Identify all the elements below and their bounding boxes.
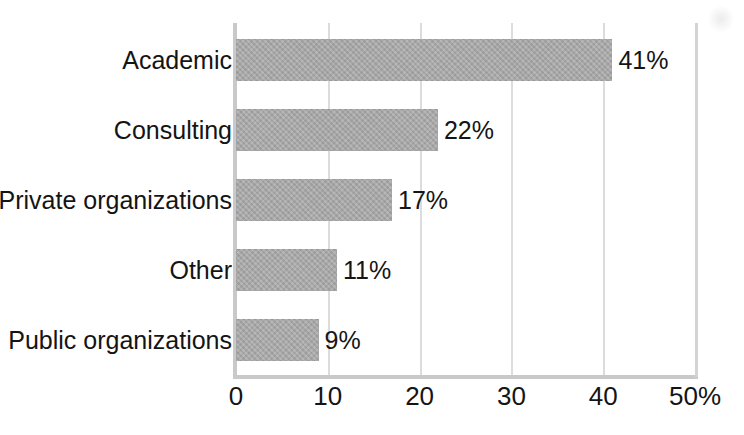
bar-value-label: 9% (325, 319, 361, 361)
bar-row: 22% (236, 95, 695, 165)
category-label: Consulting (0, 115, 232, 145)
bar-value-label: 22% (444, 109, 494, 151)
bar (236, 39, 612, 81)
bar-row: 41% (236, 25, 695, 95)
x-axis-line (233, 375, 698, 379)
bar-value-label: 41% (618, 39, 668, 81)
bar (236, 319, 319, 361)
x-tick-label: 0 (229, 381, 243, 411)
bar-value-label: 17% (398, 179, 448, 221)
category-label: Private organizations (0, 185, 232, 215)
category-label: Public organizations (0, 325, 232, 355)
category-label: Academic (0, 45, 232, 75)
bar-row: 11% (236, 235, 695, 305)
x-tick-label: 10 (313, 381, 342, 411)
scan-artifact (708, 6, 734, 32)
bar-value-label: 11% (343, 249, 391, 291)
horizontal-bar-chart: 41%22%17%11%9% AcademicConsultingPrivate… (0, 0, 744, 435)
x-tick-label: 40 (589, 381, 618, 411)
plot-right-border (695, 23, 698, 377)
bar (236, 249, 337, 291)
bar-row: 17% (236, 165, 695, 235)
bar (236, 179, 392, 221)
bar (236, 109, 438, 151)
x-tick-label: 50% (669, 381, 721, 411)
category-label: Other (0, 255, 232, 285)
plot-area: 41%22%17%11%9% (236, 25, 695, 375)
x-tick-label: 30 (497, 381, 526, 411)
bar-row: 9% (236, 305, 695, 375)
x-tick-label: 20 (405, 381, 434, 411)
